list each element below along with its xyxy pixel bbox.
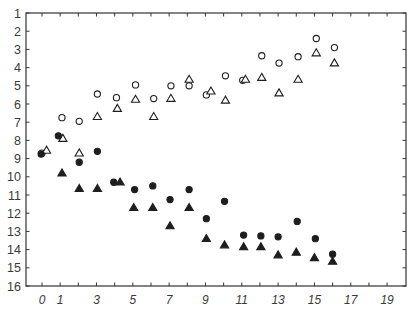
open-circle-marker	[76, 118, 82, 124]
filled-triangle-marker	[93, 184, 101, 191]
y-tick-label: 1	[14, 7, 21, 21]
series-open-circles	[39, 35, 338, 156]
plot-frame	[26, 13, 406, 286]
y-tick-label: 6	[14, 98, 21, 112]
filled-circle-marker	[275, 234, 281, 240]
open-circle-marker	[222, 73, 228, 79]
filled-triangle-marker	[220, 241, 228, 248]
series-filled-triangles	[58, 169, 337, 264]
open-circle-marker	[276, 60, 282, 66]
scatter-chart: 0135791113151719 12345678910111213141516	[0, 0, 417, 311]
y-tick-label: 8	[14, 134, 21, 148]
filled-circle-marker	[186, 186, 192, 192]
x-tick-label: 9	[202, 293, 209, 307]
open-triangle-marker	[185, 75, 193, 82]
y-tick-label: 4	[14, 61, 21, 75]
filled-circle-marker	[221, 198, 227, 204]
filled-triangle-marker	[58, 169, 66, 176]
filled-circle-marker	[94, 148, 100, 154]
y-axis-tick-labels: 12345678910111213141516	[7, 7, 21, 294]
filled-triangle-marker	[130, 204, 138, 211]
x-tick-label: 5	[129, 293, 136, 307]
y-tick-label: 16	[7, 280, 21, 294]
open-triangle-marker	[131, 95, 139, 102]
x-tick-label: 3	[93, 293, 100, 307]
filled-triangle-marker	[310, 254, 318, 261]
open-triangle-marker	[258, 73, 266, 80]
filled-triangle-marker	[274, 251, 282, 258]
filled-triangle-marker	[257, 243, 265, 250]
y-tick-label: 3	[14, 43, 21, 57]
open-triangle-marker	[113, 104, 121, 111]
open-circle-marker	[59, 115, 65, 121]
filled-circle-marker	[76, 159, 82, 165]
y-tick-label: 12	[7, 207, 21, 221]
open-circle-marker	[186, 83, 192, 89]
filled-circle-marker	[55, 133, 61, 139]
y-tick-label: 10	[7, 170, 21, 184]
open-circle-marker	[168, 83, 174, 89]
filled-triangle-marker	[149, 204, 157, 211]
open-circle-marker	[259, 53, 265, 59]
x-tick-label: 19	[380, 293, 394, 307]
open-triangle-marker	[167, 94, 175, 101]
y-tick-label: 14	[7, 243, 21, 257]
axis-ticks	[26, 13, 406, 286]
filled-triangle-marker	[329, 257, 337, 264]
data-points	[38, 35, 339, 264]
open-circle-marker	[151, 95, 157, 101]
open-circle-marker	[313, 35, 319, 41]
open-triangle-marker	[294, 75, 302, 82]
filled-triangle-marker	[185, 204, 193, 211]
open-triangle-marker	[275, 89, 283, 96]
filled-triangle-marker	[202, 234, 210, 241]
x-tick-label: 13	[271, 293, 285, 307]
open-triangle-marker	[93, 113, 101, 120]
y-tick-label: 2	[14, 25, 21, 39]
series-open-triangles	[42, 49, 338, 156]
open-circle-marker	[295, 54, 301, 60]
open-circle-marker	[94, 91, 100, 97]
y-tick-label: 11	[8, 189, 21, 203]
filled-circle-marker	[150, 183, 156, 189]
open-triangle-marker	[75, 149, 83, 156]
filled-triangle-marker	[166, 222, 174, 229]
y-tick-label: 13	[7, 225, 21, 239]
filled-circle-marker	[241, 232, 247, 238]
filled-triangle-marker	[240, 243, 248, 250]
filled-triangle-marker	[75, 184, 83, 191]
open-triangle-marker	[207, 87, 215, 94]
chart-canvas: 0135791113151719 12345678910111213141516	[0, 0, 417, 311]
filled-circle-marker	[38, 151, 44, 157]
y-tick-label: 9	[14, 152, 21, 166]
filled-circle-marker	[203, 216, 209, 222]
x-tick-label: 15	[308, 293, 322, 307]
open-triangle-marker	[330, 59, 338, 66]
open-circle-marker	[113, 95, 119, 101]
x-tick-label: 0	[39, 293, 46, 307]
filled-triangle-marker	[292, 248, 300, 255]
x-tick-label: 17	[344, 293, 359, 307]
open-triangle-marker	[150, 113, 158, 120]
filled-circle-marker	[312, 236, 318, 242]
y-tick-label: 5	[14, 79, 21, 93]
filled-circle-marker	[132, 186, 138, 192]
filled-circle-marker	[258, 233, 264, 239]
open-triangle-marker	[312, 49, 320, 56]
x-tick-label: 1	[57, 293, 64, 307]
open-triangle-marker	[221, 96, 229, 103]
x-tick-label: 11	[236, 293, 248, 307]
x-tick-label: 7	[166, 293, 174, 307]
open-circle-marker	[331, 44, 337, 50]
y-tick-label: 7	[14, 116, 21, 130]
filled-circle-marker	[167, 196, 173, 202]
series-filled-circles	[38, 133, 336, 258]
y-tick-label: 15	[7, 261, 21, 275]
filled-circle-marker	[294, 218, 300, 224]
open-circle-marker	[132, 82, 138, 88]
x-axis-tick-labels: 0135791113151719	[39, 293, 394, 307]
